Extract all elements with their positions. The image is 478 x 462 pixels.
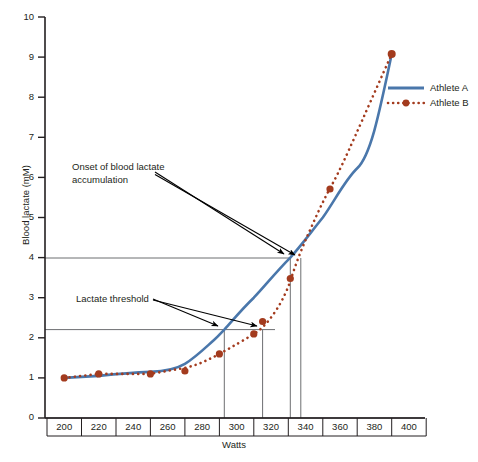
series-athlete-b-markers bbox=[61, 50, 396, 381]
y-tick-label-0: 0 bbox=[12, 411, 34, 423]
legend-label-athlete-b: Athlete B bbox=[430, 97, 469, 109]
y-axis-title: Blood lactate (mM) bbox=[20, 165, 31, 245]
x-tick-label-240: 240 bbox=[116, 421, 151, 433]
y-axis-title-wrapper: Blood lactate (mM) bbox=[15, 135, 33, 275]
x-tick-label-300: 300 bbox=[219, 421, 254, 433]
y-tick-label-8: 8 bbox=[12, 91, 34, 103]
lactate-threshold-annotation: Lactate threshold bbox=[76, 292, 149, 305]
reference-lines bbox=[45, 258, 301, 418]
y-tick-label-3: 3 bbox=[12, 291, 34, 303]
obla-annotation-line2: accumulation bbox=[72, 173, 128, 186]
x-tick-label-260: 260 bbox=[150, 421, 185, 433]
x-tick-label-320: 320 bbox=[254, 421, 289, 433]
chart-canvas bbox=[0, 0, 478, 462]
x-tick-label-200: 200 bbox=[47, 421, 82, 433]
legend-label-athlete-a: Athlete A bbox=[430, 82, 468, 94]
x-tick-label-220: 220 bbox=[82, 421, 117, 433]
x-tick-label-340: 340 bbox=[288, 421, 323, 433]
x-tick-label-280: 280 bbox=[185, 421, 220, 433]
x-axis-title: Watts bbox=[204, 439, 264, 451]
x-tick-label-360: 360 bbox=[323, 421, 358, 433]
y-tick-label-9: 9 bbox=[12, 51, 34, 63]
lactate-threshold-annotation-arrows bbox=[153, 299, 257, 326]
obla-annotation-arrows bbox=[155, 172, 295, 255]
obla-annotation-line1: Onset of blood lactate bbox=[72, 160, 164, 173]
legend-marker-athlete-b bbox=[403, 100, 410, 107]
lactate-threshold-chart: 10 9 8 7 6 5 4 3 2 1 0 200 220 240 260 2… bbox=[0, 0, 478, 462]
y-tick-label-1: 1 bbox=[12, 371, 34, 383]
legend-swatches bbox=[388, 88, 424, 106]
y-tick-label-10: 10 bbox=[12, 11, 34, 23]
y-axis bbox=[38, 17, 45, 418]
y-tick-label-2: 2 bbox=[12, 331, 34, 343]
x-tick-label-400: 400 bbox=[392, 421, 427, 433]
x-tick-label-380: 380 bbox=[357, 421, 392, 433]
